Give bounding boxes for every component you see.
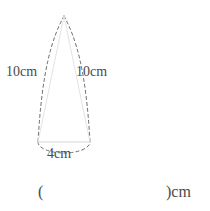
slant-height-right-label: 10cm xyxy=(76,65,107,79)
answer-close-paren-unit: )cm xyxy=(166,182,191,202)
answer-row: ( )cm xyxy=(0,182,210,206)
base-diameter-label: 4cm xyxy=(47,147,71,161)
slant-height-left-label: 10cm xyxy=(6,65,37,79)
cone-triangle-solid xyxy=(38,16,90,142)
answer-blank-field[interactable] xyxy=(52,182,164,202)
answer-open-paren: ( xyxy=(38,182,43,202)
cone-geometry-figure: 10cm 10cm 4cm ( )cm xyxy=(0,0,210,211)
cone-diagram xyxy=(0,0,210,211)
